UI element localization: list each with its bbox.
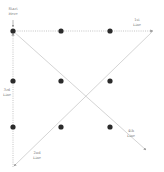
line-4th-label-1: 4th	[128, 129, 135, 133]
line-2nd	[14, 31, 153, 166]
line-1st-label-2: Line	[133, 23, 141, 27]
dot	[10, 78, 15, 83]
line-2nd-label-1: 2nd	[34, 151, 42, 155]
line-4th-label-2: Line	[127, 134, 135, 138]
line-1st-label-1: 1st	[134, 18, 140, 22]
line-2nd-label-2: Line	[33, 156, 41, 160]
dot	[107, 78, 112, 83]
line-3rd-label-1: 3rd	[4, 88, 11, 92]
start-label-1: Start	[8, 7, 18, 11]
dot	[58, 78, 63, 83]
dot	[10, 124, 15, 129]
dot	[107, 124, 112, 129]
nine-dots-diagram: Start Here 1st Line 3rd Line 2nd Line 4t…	[0, 0, 164, 172]
dot	[107, 28, 112, 33]
dot-grid	[10, 28, 112, 129]
dot	[10, 28, 15, 33]
line-3rd-label-2: Line	[3, 93, 11, 97]
dot	[58, 28, 63, 33]
start-label-2: Here	[8, 12, 17, 16]
line-4th	[13, 31, 146, 150]
dot	[58, 124, 63, 129]
